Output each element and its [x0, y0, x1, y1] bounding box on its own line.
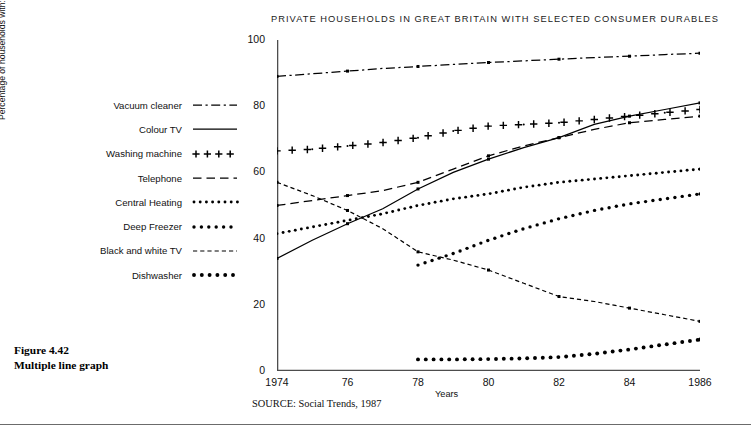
x-axis-tick-label: 82	[534, 376, 584, 388]
x-axis-tick-label: 80	[464, 376, 514, 388]
legend-item-central-heating: Central Heating	[55, 190, 240, 214]
legend-item-vacuum-cleaner: Vacuum cleaner	[55, 93, 240, 117]
chart-title: PRIVATE HOUSEHOLDS IN GREAT BRITAIN WITH…	[265, 14, 725, 24]
x-axis-tick-label: 84	[605, 376, 655, 388]
legend-line-sample-icon	[190, 122, 240, 136]
legend-line-sample-icon	[190, 268, 240, 282]
legend-line-sample-icon	[190, 171, 240, 185]
x-axis-tick-label: 78	[393, 376, 443, 388]
plot-area	[277, 40, 700, 371]
x-axis-tick-label: 1974	[252, 376, 302, 388]
x-axis-title: Years	[435, 389, 458, 399]
legend-item-deep-freezer: Deep Freezer	[55, 214, 240, 238]
legend-item-label: Dishwasher	[132, 270, 190, 281]
series-vacuum-cleaner	[277, 52, 700, 78]
series-washing-machine	[277, 106, 700, 155]
legend-item-label: Washing machine	[106, 148, 190, 159]
x-axis-tick-label: 76	[323, 376, 373, 388]
legend-item-colour-tv: Colour TV	[55, 117, 240, 141]
source-note: SOURCE: Social Trends, 1987	[252, 398, 381, 409]
figure-caption-title: Multiple line graph	[14, 358, 108, 373]
series-black-and-white-tv	[277, 181, 700, 323]
y-axis-tick-label: 100	[235, 33, 265, 45]
series-dishwasher	[416, 338, 700, 362]
legend-line-sample-icon	[190, 195, 240, 209]
legend-item-label: Colour TV	[139, 124, 190, 135]
legend-item-washing-machine: Washing machine	[55, 142, 240, 166]
y-axis-tick-label: 0	[235, 364, 265, 376]
legend-item-dishwasher: Dishwasher	[55, 263, 240, 287]
line-chart-svg	[277, 40, 700, 371]
y-axis-tick-label: 60	[235, 165, 265, 177]
legend-line-sample-icon	[190, 244, 240, 258]
figure-caption: Figure 4.42 Multiple line graph	[14, 343, 108, 372]
legend-item-black-and-white-tv: Black and white TV	[55, 239, 240, 263]
legend-item-telephone: Telephone	[55, 166, 240, 190]
series-deep-freezer	[416, 192, 700, 267]
legend-line-sample-icon	[190, 147, 240, 161]
series-central-heating	[277, 168, 700, 235]
y-axis-tick-label: 20	[235, 298, 265, 310]
bottom-divider	[0, 424, 751, 425]
y-axis-title: Percentage of households with:	[0, 0, 7, 120]
figure-caption-number: Figure 4.42	[14, 343, 108, 358]
legend-item-label: Telephone	[138, 173, 190, 184]
legend-item-label: Deep Freezer	[123, 221, 190, 232]
legend-item-label: Black and white TV	[100, 245, 190, 256]
x-axis-tick-label: 1986	[675, 376, 725, 388]
legend-item-label: Vacuum cleaner	[113, 100, 190, 111]
legend-line-sample-icon	[190, 220, 240, 234]
y-axis-tick-label: 40	[235, 232, 265, 244]
legend-line-sample-icon	[190, 98, 240, 112]
figure-container: PRIVATE HOUSEHOLDS IN GREAT BRITAIN WITH…	[0, 0, 751, 438]
legend-item-label: Central Heating	[115, 197, 190, 208]
y-axis-tick-label: 80	[235, 99, 265, 111]
chart-legend: Vacuum cleanerColour TVWashing machineTe…	[55, 93, 240, 287]
